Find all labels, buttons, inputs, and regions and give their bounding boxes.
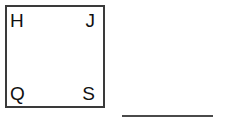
corner-label-bottom-right: S — [73, 84, 95, 103]
answer-line — [122, 115, 213, 117]
corner-label-top-left: H — [10, 11, 24, 30]
figure-canvas: H J Q S — [0, 0, 227, 124]
corner-label-bottom-left: Q — [10, 84, 25, 103]
corner-label-top-right: J — [73, 11, 95, 30]
